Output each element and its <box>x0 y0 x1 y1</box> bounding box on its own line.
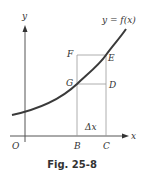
figure-caption: Fig. 25-8 <box>47 159 97 170</box>
function-curve <box>12 29 126 115</box>
x-axis-label: x <box>131 131 136 141</box>
x-axis-arrow-icon <box>122 134 129 139</box>
y-axis-arrow-icon <box>23 25 28 32</box>
point-label-F: F <box>66 49 74 59</box>
curve-label: y = f(x) <box>101 15 136 25</box>
point-label-B: B <box>73 141 81 151</box>
point-label-C: C <box>103 141 110 151</box>
point-label-E: E <box>107 53 115 63</box>
origin-label: O <box>12 141 20 151</box>
point-label-D: D <box>108 80 116 90</box>
increment-diagram: y x y = f(x) F E G D O B C Δx Fig. 25-8 <box>0 0 144 182</box>
point-label-G: G <box>66 78 73 88</box>
y-axis-label: y <box>21 11 28 21</box>
delta-x-label: Δx <box>84 122 97 132</box>
